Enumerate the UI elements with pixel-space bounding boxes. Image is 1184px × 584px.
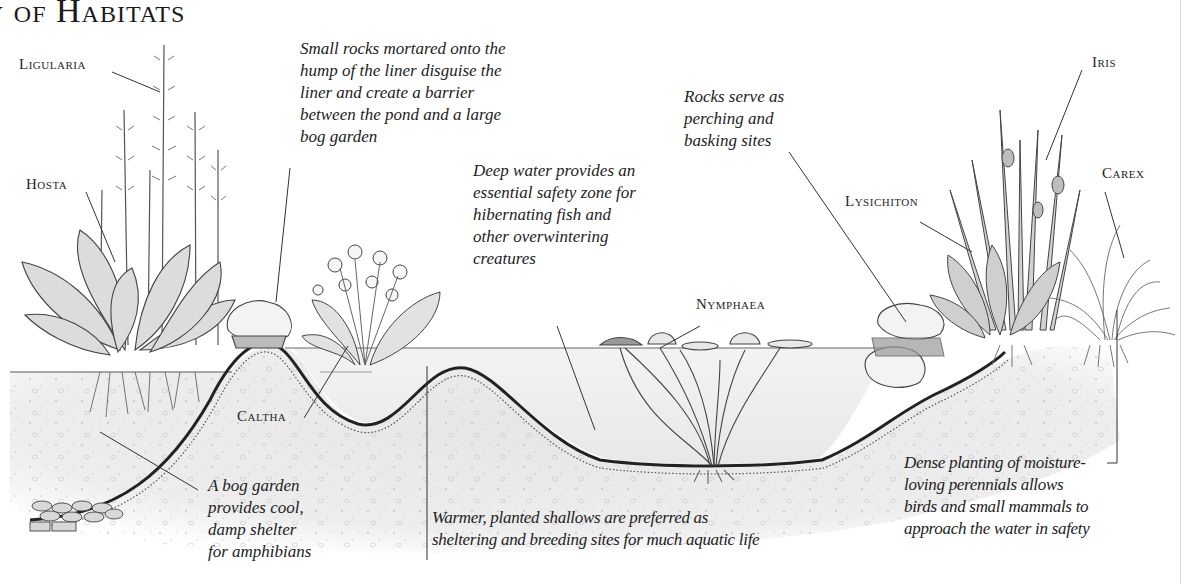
annotation-line: hibernating fish and [473, 204, 636, 226]
label-lysichiton: Lysichiton [845, 193, 918, 210]
annotation-line: loving perennials allows [904, 474, 1090, 496]
label-carex: Carex [1102, 165, 1144, 182]
annotation-line: Rocks serve as [684, 86, 784, 108]
annotation-line: sheltering and breeding sites for much a… [432, 529, 759, 551]
label-iris: Iris [1092, 54, 1116, 71]
annotation-bog-garden: A bog garden provides cool, damp shelter… [208, 475, 311, 563]
annotation-basking-rocks: Rocks serve as perching and basking site… [684, 86, 784, 152]
caltha-plant [302, 245, 440, 365]
annotation-line: essential safety zone for [473, 182, 636, 204]
annotation-line: A bog garden [208, 475, 311, 497]
annotation-line: perching and [684, 108, 784, 130]
annotation-line: Small rocks mortared onto the [300, 38, 506, 60]
annotation-line: between the pond and a large [300, 104, 506, 126]
annotation-line: Dense planting of moisture- [904, 452, 1090, 474]
annotation-line: liner and create a barrier [300, 82, 506, 104]
annotation-line: damp shelter [208, 519, 311, 541]
annotation-dense-planting: Dense planting of moisture- loving peren… [904, 452, 1090, 540]
annotation-deep-water: Deep water provides an essential safety … [473, 160, 636, 270]
pond-habitat-diagram: y of Habitats [0, 0, 1184, 584]
annotation-line: bog garden [300, 126, 506, 148]
label-hosta: Hosta [26, 176, 67, 193]
annotation-line: provides cool, [208, 497, 311, 519]
annotation-line: basking sites [684, 130, 784, 152]
label-ligularia: Ligularia [19, 56, 86, 73]
annotation-line: Deep water provides an [473, 160, 636, 182]
annotation-line: approach the water in safety [904, 518, 1090, 540]
hosta-plant [22, 230, 235, 355]
annotation-rocks-liner: Small rocks mortared onto the hump of th… [300, 38, 506, 148]
label-nymphaea: Nymphaea [696, 296, 765, 313]
annotation-line: for amphibians [208, 541, 311, 563]
annotation-line: Warmer, planted shallows are preferred a… [432, 507, 759, 529]
label-caltha: Caltha [237, 408, 286, 425]
annotation-line: creatures [473, 248, 636, 270]
annotation-shallows: Warmer, planted shallows are preferred a… [432, 507, 759, 551]
annotation-line: other overwintering [473, 226, 636, 248]
annotation-line: hump of the liner disguise the [300, 60, 506, 82]
annotation-line: birds and small mammals to [904, 496, 1090, 518]
page-edge-divider [1180, 0, 1181, 584]
